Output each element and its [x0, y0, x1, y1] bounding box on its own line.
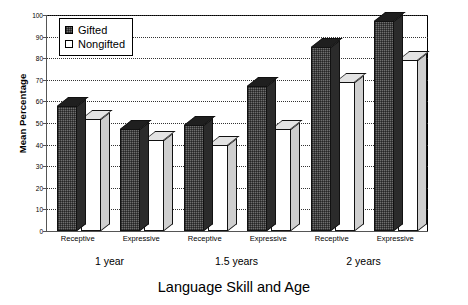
bar-face	[120, 129, 140, 231]
y-axis-tick-mark	[43, 80, 47, 81]
bar-gifted-3	[247, 86, 267, 231]
bar-side	[267, 79, 276, 231]
bar-gifted-0	[57, 106, 77, 231]
y-axis-tick-mark	[43, 37, 47, 38]
y-axis-tick-mark	[43, 166, 47, 167]
legend-swatch-gifted	[65, 26, 73, 34]
bar-face	[247, 86, 267, 231]
bar-gifted-4	[311, 47, 331, 231]
x-axis-category-label: Receptive	[315, 234, 349, 243]
gridline	[47, 58, 428, 59]
bar-side	[418, 53, 427, 231]
y-axis-tick-mark	[43, 101, 47, 102]
y-axis-tick-mark	[43, 145, 47, 146]
x-axis-category-label: Expressive	[377, 234, 414, 243]
y-axis-tick-mark	[43, 58, 47, 59]
bar-side	[204, 118, 213, 231]
gridline	[47, 101, 428, 102]
bar-face	[57, 106, 77, 231]
bar-side	[355, 75, 364, 231]
bar-side	[331, 40, 340, 231]
bar-gifted-1	[120, 129, 140, 231]
y-axis-tick-mark	[43, 188, 47, 189]
x-axis-group-label: 2 years	[346, 255, 380, 267]
legend-swatch-nongifted	[65, 40, 73, 48]
y-axis-title: Mean Percentage	[17, 54, 28, 174]
bar-side	[77, 99, 86, 231]
x-axis-group-label: 1 year	[95, 255, 124, 267]
bar-face	[184, 125, 204, 231]
bar-side	[164, 133, 173, 231]
bar-side	[394, 14, 403, 231]
bar-side	[228, 138, 237, 231]
bar-side	[140, 122, 149, 231]
bar-face	[374, 21, 394, 231]
y-axis-tick-mark	[43, 209, 47, 210]
x-axis-title: Language Skill and Age	[0, 279, 468, 295]
x-axis-category-label: Receptive	[61, 234, 95, 243]
x-axis-category-label: Expressive	[123, 234, 160, 243]
bar-face	[311, 47, 331, 231]
bar-side	[101, 112, 110, 231]
x-axis-category-label: Receptive	[188, 234, 222, 243]
legend-label-nongifted: Nongifted	[78, 38, 125, 50]
y-axis-tick-mark	[43, 15, 47, 16]
chart-figure: Mean Percentage 0102030405060708090100 G…	[0, 0, 468, 305]
legend-item-nongifted: Nongifted	[65, 38, 125, 50]
bar-side	[291, 122, 300, 231]
y-axis-tick-mark	[43, 231, 47, 232]
bar-gifted-5	[374, 21, 394, 231]
x-axis-category-label: Expressive	[250, 234, 287, 243]
chart-legend: Gifted Nongifted	[59, 18, 133, 56]
y-axis-tick-mark	[43, 123, 47, 124]
bar-gifted-2	[184, 125, 204, 231]
gridline	[47, 15, 428, 16]
legend-label-gifted: Gifted	[78, 24, 107, 36]
legend-item-gifted: Gifted	[65, 24, 125, 36]
x-axis-group-label: 1.5 years	[215, 255, 258, 267]
gridline	[47, 80, 428, 81]
